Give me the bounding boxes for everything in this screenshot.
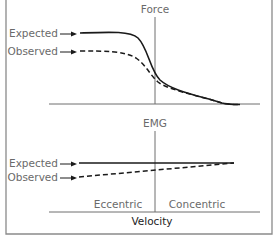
emg-observed-line — [79, 163, 234, 177]
arrow-icon — [60, 50, 77, 55]
force-emg-velocity-diagram: Force Expected Observed EMG Expected — [0, 0, 275, 240]
arrow-icon — [60, 32, 77, 37]
emg-panel: EMG Expected Observed Eccentric Concentr… — [7, 117, 260, 227]
force-legend-expected: Expected — [9, 27, 58, 39]
force-expected-curve — [80, 32, 240, 104]
force-legend-observed: Observed — [7, 45, 58, 57]
emg-title: EMG — [143, 117, 167, 129]
force-panel: Force Expected Observed — [7, 3, 260, 105]
velocity-axis-label: Velocity — [131, 215, 172, 227]
eccentric-label: Eccentric — [94, 198, 143, 210]
emg-legend-observed: Observed — [7, 171, 58, 183]
force-observed-curve — [80, 51, 240, 105]
emg-legend-expected: Expected — [9, 157, 58, 169]
arrow-icon — [60, 162, 77, 167]
force-title: Force — [141, 3, 169, 15]
arrow-icon — [60, 176, 77, 181]
concentric-label: Concentric — [169, 198, 226, 210]
